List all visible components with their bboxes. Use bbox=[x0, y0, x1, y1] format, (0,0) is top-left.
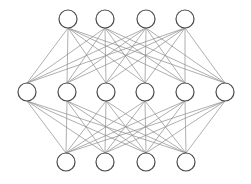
connection-line bbox=[146, 28, 225, 83]
connection-line bbox=[27, 28, 146, 83]
connection-line bbox=[185, 28, 225, 83]
connection-line bbox=[27, 101, 66, 153]
connection-line bbox=[66, 101, 185, 153]
connection-line bbox=[105, 101, 225, 153]
connection-line bbox=[66, 101, 106, 153]
connection-line bbox=[67, 101, 146, 153]
connection-line bbox=[186, 101, 225, 153]
hidden-layer-node-1 bbox=[18, 83, 36, 101]
hidden-layer-node-5 bbox=[176, 83, 194, 101]
connection-line bbox=[27, 101, 146, 153]
input-layer-node-3 bbox=[137, 10, 155, 28]
hidden-layer-node-2 bbox=[58, 83, 76, 101]
hidden-layer-node-6 bbox=[216, 83, 234, 101]
input-layer-node-4 bbox=[176, 10, 194, 28]
output-layer-node-4 bbox=[177, 153, 195, 171]
connections bbox=[27, 28, 225, 153]
connection-line bbox=[67, 28, 68, 83]
input-layer-node-1 bbox=[59, 10, 77, 28]
network-svg bbox=[0, 0, 251, 184]
connection-line bbox=[66, 101, 67, 153]
input-layer-node-2 bbox=[96, 10, 114, 28]
hidden-layer-node-3 bbox=[97, 83, 115, 101]
connection-line bbox=[67, 101, 186, 153]
connection-line bbox=[27, 28, 68, 83]
output-layer-node-1 bbox=[57, 153, 75, 171]
output-layer-node-3 bbox=[137, 153, 155, 171]
connection-line bbox=[27, 28, 105, 83]
connection-line bbox=[105, 28, 145, 83]
neural-network-diagram bbox=[0, 0, 251, 184]
hidden-layer-node-4 bbox=[136, 83, 154, 101]
connection-line bbox=[68, 28, 225, 83]
neurons bbox=[18, 10, 234, 171]
output-layer-node-2 bbox=[96, 153, 114, 171]
